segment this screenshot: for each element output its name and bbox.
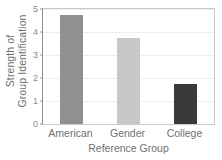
bar-gender bbox=[117, 38, 140, 124]
x-tick-label-college: College bbox=[167, 127, 203, 140]
y-tick-label: 2 bbox=[33, 74, 43, 83]
y-axis-label-line-1: Strength of bbox=[4, 35, 16, 87]
x-tick-label-gender: Gender bbox=[110, 127, 145, 140]
y-tick-label: 3 bbox=[33, 51, 43, 60]
y-axis-label-line-2: Group Identification bbox=[16, 14, 28, 107]
x-axis-tick-labels: AmericanGenderCollege bbox=[42, 127, 215, 141]
y-tick-label: 1 bbox=[33, 97, 43, 106]
bar-series bbox=[43, 9, 214, 124]
y-tick-label: 5 bbox=[33, 5, 43, 14]
y-tick-label: 4 bbox=[33, 28, 43, 37]
x-tick-label-american: American bbox=[48, 127, 92, 140]
plot-area: 012345 bbox=[42, 8, 215, 125]
y-axis-label: Strength of Group Identification bbox=[3, 1, 29, 121]
bar-college bbox=[174, 84, 197, 124]
bar-american bbox=[60, 15, 83, 124]
bar-chart-figure: Strength of Group Identification 012345 … bbox=[0, 0, 222, 160]
x-axis-label: Reference Group bbox=[42, 142, 215, 155]
